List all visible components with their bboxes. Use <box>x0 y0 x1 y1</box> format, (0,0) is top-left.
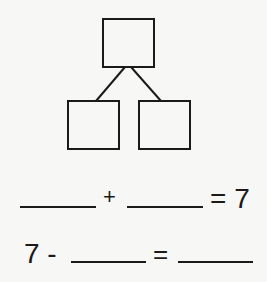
right-connector-line <box>131 67 161 101</box>
addend-1-blank[interactable] <box>20 206 96 208</box>
left-part-box[interactable] <box>67 100 120 150</box>
addend-2-blank[interactable] <box>127 206 203 208</box>
equals-operator: = <box>153 241 168 267</box>
plus-operator: + <box>103 184 116 210</box>
right-part-box[interactable] <box>138 100 191 150</box>
left-connector-line <box>96 67 125 101</box>
sum-text: = 7 <box>210 186 250 212</box>
difference-blank[interactable] <box>178 261 253 263</box>
minuend-text: 7 - <box>24 241 57 267</box>
subtrahend-blank[interactable] <box>71 261 146 263</box>
